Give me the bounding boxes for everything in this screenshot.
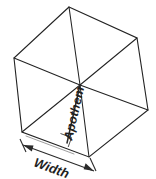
spoke-to-top (69, 7, 80, 85)
geometry-diagram: Apothem Width (0, 0, 156, 179)
spoke-to-upper-right (80, 38, 137, 85)
hexagon-apothem-diagram-svg: Apothem Width (0, 0, 156, 179)
width-label: Width (32, 155, 71, 179)
spoke-to-lower-right (80, 85, 148, 110)
spoke-to-upper-left (14, 58, 80, 85)
hexagon-spokes (14, 7, 148, 157)
hexagon-outline (14, 7, 148, 157)
